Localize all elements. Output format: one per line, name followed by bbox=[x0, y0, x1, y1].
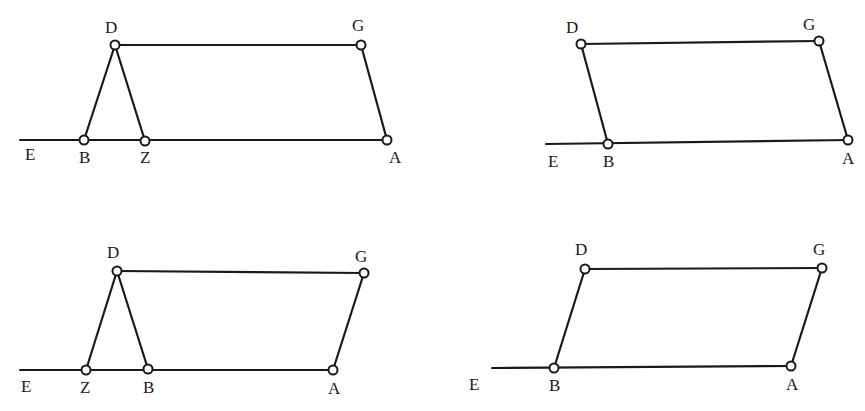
segment-db bbox=[84, 45, 115, 140]
figure-3: DGZBAE bbox=[20, 243, 369, 398]
point-label-a: A bbox=[842, 149, 855, 168]
point-z-marker bbox=[141, 137, 150, 146]
point-z-marker bbox=[82, 366, 91, 375]
point-label-a: A bbox=[328, 379, 341, 398]
point-label-g: G bbox=[352, 16, 364, 35]
point-g-marker bbox=[815, 37, 824, 46]
point-d-marker bbox=[581, 265, 590, 274]
point-g-marker bbox=[818, 264, 827, 273]
point-d-marker bbox=[577, 40, 586, 49]
point-a-marker bbox=[844, 136, 853, 145]
point-label-d: D bbox=[575, 240, 587, 259]
point-b-marker bbox=[550, 364, 559, 373]
point-g-marker bbox=[360, 269, 369, 278]
point-a-marker bbox=[329, 366, 338, 375]
point-label-z: Z bbox=[80, 378, 90, 397]
figure-4: DGBAE bbox=[469, 240, 827, 395]
point-label-g: G bbox=[803, 15, 815, 34]
segment-db bbox=[554, 269, 585, 368]
point-label-z: Z bbox=[140, 148, 150, 167]
segment-ga bbox=[791, 268, 822, 366]
segment-dg bbox=[117, 271, 364, 273]
segment-dg bbox=[581, 41, 819, 44]
baseline-line bbox=[546, 140, 848, 144]
point-label-e: E bbox=[25, 145, 35, 164]
segment-dz bbox=[115, 45, 145, 141]
point-label-e: E bbox=[21, 377, 31, 396]
point-label-b: B bbox=[549, 376, 560, 395]
segment-db bbox=[117, 271, 148, 369]
point-b-marker bbox=[604, 140, 613, 149]
point-label-b: B bbox=[603, 152, 614, 171]
point-d-marker bbox=[111, 41, 120, 50]
figure-1: DGBZAE bbox=[20, 16, 402, 167]
point-label-d: D bbox=[566, 18, 578, 37]
segment-ga bbox=[333, 273, 364, 370]
segment-dg bbox=[585, 268, 822, 269]
point-label-d: D bbox=[105, 18, 117, 37]
point-label-e: E bbox=[548, 152, 558, 171]
point-a-marker bbox=[383, 136, 392, 145]
point-label-a: A bbox=[389, 148, 402, 167]
point-label-g: G bbox=[813, 240, 825, 259]
geometry-diagram-canvas: DGBZAEDGBAEDGZBAEDGBAE bbox=[0, 0, 865, 411]
point-d-marker bbox=[113, 267, 122, 276]
segment-dz bbox=[86, 271, 117, 370]
baseline-line bbox=[492, 366, 791, 368]
segment-db bbox=[581, 44, 608, 144]
point-label-e: E bbox=[469, 375, 479, 394]
point-b-marker bbox=[144, 365, 153, 374]
point-label-d: D bbox=[107, 243, 119, 262]
point-label-b: B bbox=[143, 378, 154, 397]
segment-ga bbox=[819, 41, 848, 140]
point-label-a: A bbox=[786, 375, 799, 394]
point-a-marker bbox=[787, 362, 796, 371]
figure-2: DGBAE bbox=[546, 15, 855, 171]
point-label-g: G bbox=[355, 247, 367, 266]
point-label-b: B bbox=[79, 148, 90, 167]
point-b-marker bbox=[80, 136, 89, 145]
segment-ga bbox=[361, 45, 387, 140]
point-g-marker bbox=[357, 41, 366, 50]
